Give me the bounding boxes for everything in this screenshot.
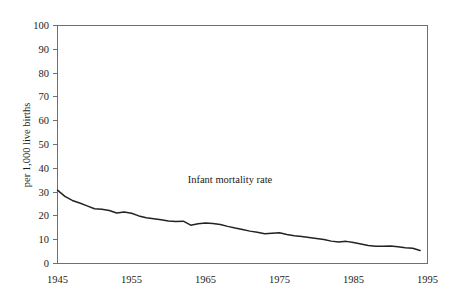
y-axis-title: per 1,000 live births xyxy=(21,103,32,188)
y-tick-label-100: 100 xyxy=(33,20,49,31)
series-annotation-label: Infant mortality rate xyxy=(188,174,273,185)
y-tick-label-20: 20 xyxy=(39,210,50,221)
y-tick-label-90: 90 xyxy=(39,44,50,55)
chart-figure: 100 90 80 70 60 50 40 30 20 10 0 1945 19… xyxy=(0,0,455,303)
y-axis-tick-labels: 100 90 80 70 60 50 40 30 20 10 0 xyxy=(33,20,49,269)
x-tick-label-1995: 1995 xyxy=(417,274,438,285)
y-tick-label-60: 60 xyxy=(39,115,50,126)
plot-frame xyxy=(58,26,428,264)
x-tick-label-1985: 1985 xyxy=(343,274,364,285)
y-tick-label-30: 30 xyxy=(39,187,50,198)
x-tick-label-1945: 1945 xyxy=(47,274,68,285)
x-axis-tick-labels: 1945 1955 1965 1975 1985 1995 xyxy=(47,274,438,285)
infant-mortality-series-line xyxy=(58,190,421,250)
y-axis-ticks xyxy=(53,26,58,264)
infant-mortality-line-chart: 100 90 80 70 60 50 40 30 20 10 0 1945 19… xyxy=(0,0,455,303)
x-tick-label-1975: 1975 xyxy=(269,274,290,285)
y-tick-label-0: 0 xyxy=(44,258,49,269)
x-tick-label-1965: 1965 xyxy=(195,274,216,285)
x-tick-label-1955: 1955 xyxy=(121,274,142,285)
y-tick-label-40: 40 xyxy=(39,163,50,174)
y-tick-label-70: 70 xyxy=(39,91,50,102)
y-tick-label-80: 80 xyxy=(39,68,50,79)
y-tick-label-50: 50 xyxy=(39,139,50,150)
y-tick-label-10: 10 xyxy=(39,234,50,245)
